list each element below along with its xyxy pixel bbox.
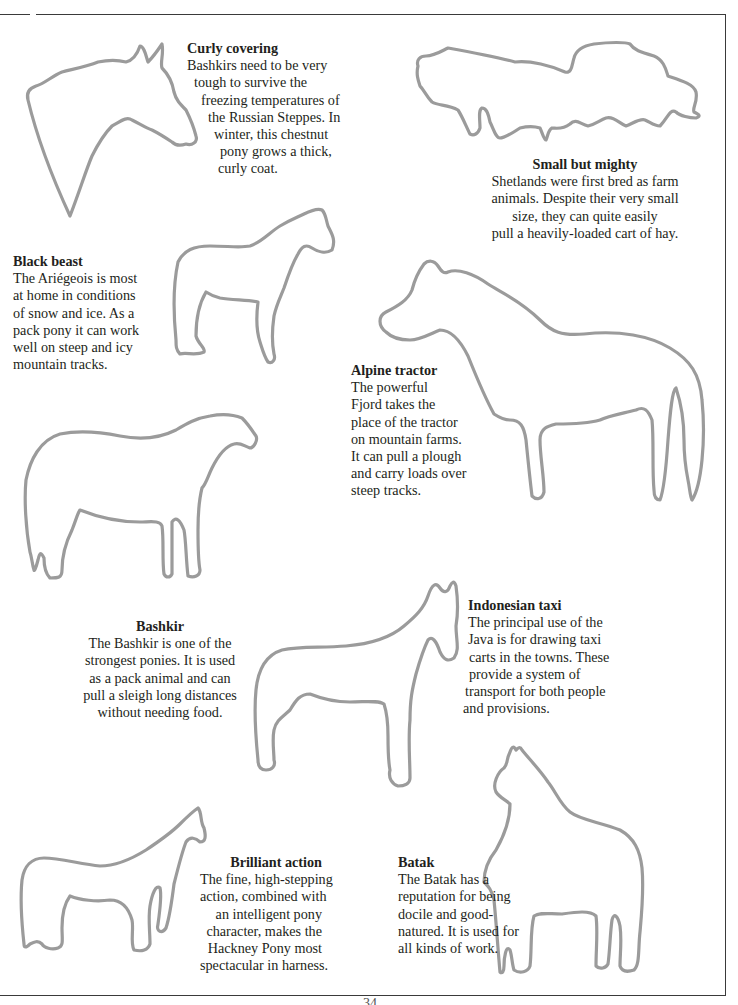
caption-line: reputation for being <box>398 888 519 905</box>
caption-line: mountain tracks. <box>13 356 139 373</box>
ariegeois-outline <box>174 209 334 362</box>
caption-batak: Batak The Batak has a reputation for bei… <box>398 854 519 957</box>
caption-line: spectacular in harness. <box>200 957 322 974</box>
caption-title: Black beast <box>13 253 139 270</box>
caption-bashkir: Bashkir The Bashkir is one of the strong… <box>60 618 260 721</box>
caption-line: pony grows a thick, <box>187 143 340 160</box>
caption-line: and carry loads over <box>351 465 466 482</box>
caption-line: Fjord takes the <box>351 396 466 413</box>
caption-line: well on steep and icy <box>13 339 139 356</box>
java-outline <box>255 582 457 786</box>
caption-line: of snow and ice. As a <box>13 305 139 322</box>
bashkir-head-outline <box>27 44 196 216</box>
caption-line: at home in conditions <box>13 287 139 304</box>
caption-title: Brilliant action <box>200 854 322 871</box>
caption-line: animals. Despite their very small <box>460 190 710 207</box>
caption-title: Indonesian taxi <box>463 597 609 614</box>
caption-line: carts in the towns. These <box>463 649 609 666</box>
caption-line: steep tracks. <box>351 482 466 499</box>
caption-line: the Russian Steppes. In <box>187 109 340 126</box>
horse-outlines <box>0 0 738 1005</box>
caption-line: The Bashkir is one of the <box>60 635 260 652</box>
caption-line: an intelligent pony <box>200 906 322 923</box>
caption-line: curly coat. <box>187 160 340 177</box>
caption-line: docile and good- <box>398 906 519 923</box>
caption-line: as a pack animal and can <box>60 670 260 687</box>
caption-line: provide a system of <box>463 666 609 683</box>
caption-line: The principal use of the <box>463 614 609 631</box>
caption-alpine-tractor: Alpine tractor The powerful Fjord takes … <box>351 362 466 500</box>
caption-line: size, they can quite easily <box>460 208 710 225</box>
caption-line: Bashkirs need to be very <box>187 57 340 74</box>
caption-line: character, makes the <box>200 923 322 940</box>
caption-line: tough to survive the <box>187 74 340 91</box>
caption-line: It can pull a plough <box>351 448 466 465</box>
caption-line: Hackney Pony most <box>200 940 322 957</box>
caption-curly-covering: Curly covering Bashkirs need to be very … <box>187 40 340 178</box>
caption-black-beast: Black beast The Ariégeois is most at hom… <box>13 253 139 373</box>
caption-title: Bashkir <box>60 618 260 635</box>
caption-line: The Ariégeois is most <box>13 270 139 287</box>
hackney-outline <box>21 808 205 951</box>
caption-line: winter, this chestnut <box>187 126 340 143</box>
caption-line: all kinds of work. <box>398 940 519 957</box>
caption-line: natured. It is used for <box>398 923 519 940</box>
caption-line: on mountain farms. <box>351 431 466 448</box>
caption-line: pull a sleigh long distances <box>60 687 260 704</box>
caption-line: The Batak has a <box>398 871 519 888</box>
caption-line: transport for both people <box>463 683 609 700</box>
caption-title: Curly covering <box>187 40 340 57</box>
caption-line: Shetlands were first bred as farm <box>460 173 710 190</box>
caption-line: The powerful <box>351 379 466 396</box>
caption-line: The fine, high-stepping <box>200 871 322 888</box>
caption-line: action, combined with <box>200 888 322 905</box>
bashkir-outline <box>25 415 256 578</box>
caption-line: freezing temperatures of <box>187 92 340 109</box>
caption-line: Java is for drawing taxi <box>463 631 609 648</box>
caption-brilliant-action: Brilliant action The fine, high-stepping… <box>200 854 322 974</box>
caption-indonesian-taxi: Indonesian taxi The principal use of the… <box>463 597 609 717</box>
caption-title: Batak <box>398 854 519 871</box>
shetland-outline <box>417 43 699 141</box>
caption-line: and provisions. <box>463 700 609 717</box>
caption-line: place of the tractor <box>351 414 466 431</box>
caption-title: Alpine tractor <box>351 362 466 379</box>
caption-line: strongest ponies. It is used <box>60 652 260 669</box>
caption-line: pull a heavily-loaded cart of hay. <box>460 225 710 242</box>
caption-line: pack pony it can work <box>13 322 139 339</box>
caption-small-but-mighty: Small but mighty Shetlands were first br… <box>460 156 710 242</box>
caption-line: without needing food. <box>60 704 260 721</box>
caption-title: Small but mighty <box>460 156 710 173</box>
